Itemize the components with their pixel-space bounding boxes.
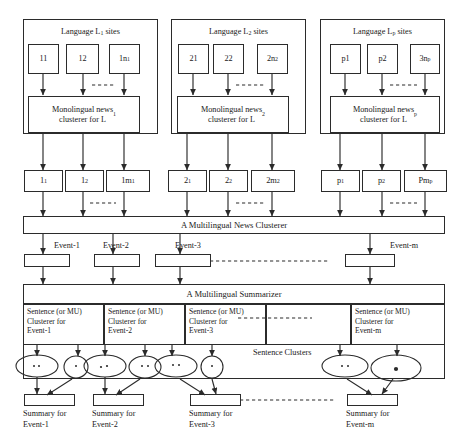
cell-3-line1: Sentence (or MU): [189, 307, 244, 316]
summary-2-line1: Summary for: [92, 409, 135, 418]
event-box-3[interactable]: [155, 254, 211, 267]
doc-cluster-1-m[interactable]: 1m1: [106, 170, 150, 192]
site-box-11[interactable]: 11: [28, 44, 59, 74]
sentence-clusterer-cell-m[interactable]: Sentence (or MU) Clusterer for Event-m: [351, 304, 445, 345]
site-box-p1[interactable]: p1: [330, 44, 361, 74]
site-box-22[interactable]: 22: [213, 44, 244, 74]
doc-cluster-2-2[interactable]: 22: [209, 170, 248, 192]
language-group-2-title: Language L2 sites: [172, 27, 305, 36]
doc-cluster-3-1[interactable]: p1: [321, 170, 360, 192]
sentence-clusters-label: Sentence Clusters: [253, 348, 311, 357]
cell-2-line1: Sentence (or MU): [108, 307, 163, 316]
site-box-3np[interactable]: 3np: [410, 44, 440, 74]
site-box-12[interactable]: 12: [66, 44, 99, 74]
summary-m-line2: Event-m: [346, 420, 374, 429]
sentence-clusterer-cell-1[interactable]: Sentence (or MU) Clusterer for Event-1: [23, 304, 104, 345]
summary-box-3[interactable]: [190, 394, 241, 406]
doc-cluster-3-2[interactable]: p2: [362, 170, 401, 192]
cell-3-line3: Event-3: [189, 326, 213, 335]
site-box-21[interactable]: 21: [178, 44, 209, 74]
diagram-canvas: Language L1 sites 11 12 1n1 Monolingual …: [0, 0, 463, 443]
cell-3-line2: Clusterer for: [189, 317, 228, 326]
doc-cluster-2-1[interactable]: 21: [168, 170, 207, 192]
summary-box-2[interactable]: [93, 394, 144, 406]
cell-m-line2: Clusterer for: [355, 317, 394, 326]
summary-label-2: Summary for Event-2: [92, 409, 135, 430]
summary-3-line1: Summary for: [189, 409, 232, 418]
sentence-clusterer-cell-2[interactable]: Sentence (or MU) Clusterer for Event-2: [104, 304, 185, 345]
doc-cluster-1-2[interactable]: 12: [65, 170, 104, 192]
event-box-m[interactable]: [345, 254, 395, 267]
sentence-clusterer-cell-gap: [266, 304, 351, 345]
event-label-2: Event-2: [103, 241, 129, 250]
summary-box-m[interactable]: [347, 394, 398, 406]
event-label-m: Event-m: [390, 241, 418, 250]
monolingual-clusterer-2[interactable]: Monolingual newsclusterer for L2: [177, 96, 289, 133]
cell-m-line3: Event-m: [355, 326, 381, 335]
summary-m-line1: Summary for: [346, 409, 389, 418]
site-box-1n1[interactable]: 1n1: [109, 44, 140, 74]
cell-1-line3: Event-1: [27, 326, 51, 335]
cell-2-line3: Event-2: [108, 326, 132, 335]
event-label-3: Event-3: [175, 241, 201, 250]
language-group-3-title: Language Lp sites: [321, 27, 444, 36]
cell-1-line2: Clusterer for: [27, 317, 66, 326]
sentence-clusterer-cell-3[interactable]: Sentence (or MU) Clusterer for Event-3: [185, 304, 266, 345]
summary-1-line2: Event-1: [23, 420, 49, 429]
summary-1-line1: Summary for: [23, 409, 66, 418]
event-box-2[interactable]: [94, 254, 140, 267]
monolingual-clusterer-3[interactable]: Monolingual newsclusterer for Lp: [330, 96, 440, 133]
event-box-1[interactable]: [24, 254, 70, 267]
cell-1-line1: Sentence (or MU): [27, 307, 82, 316]
summary-label-m: Summary for Event-m: [346, 409, 389, 430]
site-box-p2[interactable]: p2: [367, 44, 398, 74]
event-label-1: Event-1: [54, 241, 80, 250]
cell-m-line1: Sentence (or MU): [355, 307, 410, 316]
summary-2-line2: Event-2: [92, 420, 118, 429]
site-box-2n2[interactable]: 2n2: [257, 44, 288, 74]
summary-label-3: Summary for Event-3: [189, 409, 232, 430]
doc-cluster-1-1[interactable]: 11: [24, 170, 63, 192]
doc-cluster-3-m[interactable]: Pmp: [404, 170, 447, 192]
multilingual-news-clusterer[interactable]: A Multilingual News Clusterer: [23, 216, 445, 234]
summary-3-line2: Event-3: [189, 420, 215, 429]
doc-cluster-2-m[interactable]: 2m2: [251, 170, 295, 192]
summary-label-1: Summary for Event-1: [23, 409, 66, 430]
summary-box-1[interactable]: [24, 394, 75, 406]
multilingual-summarizer-title[interactable]: A Multilingual Summarizer: [23, 284, 445, 304]
cell-2-line2: Clusterer for: [108, 317, 147, 326]
monolingual-clusterer-1[interactable]: Monolingual newsclusterer for L1: [28, 96, 140, 133]
language-group-1-title: Language L1 sites: [24, 27, 157, 36]
